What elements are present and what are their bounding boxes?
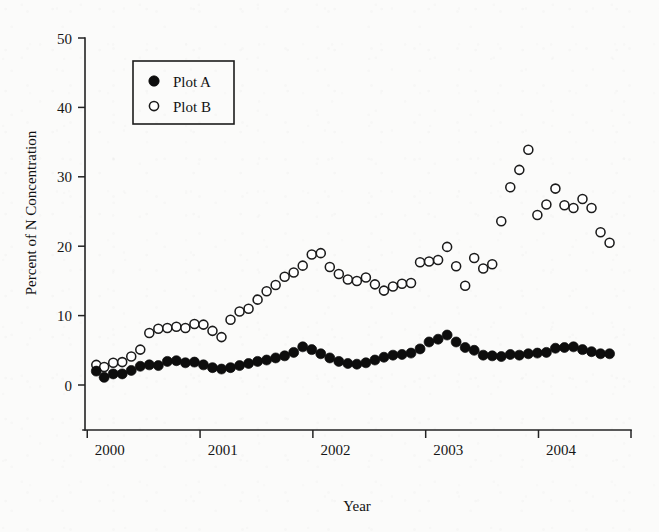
data-point-plot-b [271,281,280,290]
data-point-plot-b [316,249,325,258]
data-point-plot-a [442,330,452,340]
data-point-plot-a [108,369,118,379]
data-point-plot-b [253,295,262,304]
data-point-plot-b [379,286,388,295]
data-point-plot-a [550,343,560,353]
data-point-plot-a [171,356,181,366]
data-point-plot-b [416,258,425,267]
x-tick-label: 2000 [95,442,125,458]
data-point-plot-a [451,337,461,347]
x-tick-label: 2004 [546,442,577,458]
data-point-plot-b [109,358,118,367]
data-point-plot-b [199,320,208,329]
y-tick-label: 30 [57,169,72,185]
data-point-plot-a [406,348,416,358]
legend-label-plot-b: Plot B [173,99,211,115]
data-point-plot-a [605,349,615,359]
series-plot-b-points [92,145,614,371]
data-point-plot-a [207,363,217,373]
data-point-plot-b [190,319,199,328]
data-point-plot-a [153,361,163,371]
data-point-plot-a [541,347,551,357]
data-point-plot-a [316,349,326,359]
data-point-plot-b [136,345,145,354]
y-tick-label: 40 [57,100,72,116]
data-point-plot-b [181,324,190,333]
data-point-plot-a [343,358,353,368]
data-point-plot-a [379,352,389,362]
data-point-plot-b [479,264,488,273]
y-axis-title: Percent of N Concentration [23,130,39,295]
data-point-plot-b [470,254,479,263]
data-point-plot-a [226,363,236,373]
data-point-plot-b [434,256,443,265]
data-point-plot-a [271,353,281,363]
data-point-plot-b [208,326,217,335]
data-point-plot-a [415,344,425,354]
x-axis-ticks: 20002001200220032004 [87,430,631,458]
data-point-plot-a [370,355,380,365]
data-point-plot-a [334,356,344,366]
data-point-plot-a [496,352,506,362]
data-point-plot-a [189,357,199,367]
data-point-plot-b [163,324,172,333]
data-point-plot-a [135,361,145,371]
data-point-plot-a [505,349,515,359]
data-point-plot-b [407,278,416,287]
data-point-plot-b [118,358,127,367]
data-point-plot-b [443,242,452,251]
data-point-plot-b [551,184,560,193]
data-point-plot-b [280,272,289,281]
data-point-plot-a [577,345,587,355]
data-point-plot-b [127,352,136,361]
data-point-plot-b [452,262,461,271]
chart-legend: Plot A Plot B [133,61,234,124]
data-point-plot-b [154,324,163,333]
data-point-plot-a [126,365,136,375]
data-point-plot-b [488,260,497,269]
data-point-plot-b [145,328,154,337]
data-point-plot-b [235,307,244,316]
data-point-plot-b [560,201,569,210]
data-point-plot-a [596,349,606,359]
data-point-plot-a [523,349,533,359]
data-point-plot-a [514,350,524,360]
data-point-plot-a [280,351,290,361]
data-point-plot-b [542,200,551,209]
data-point-plot-a [244,358,254,368]
data-point-plot-b [398,279,407,288]
data-point-plot-b [425,257,434,266]
data-point-plot-a [235,361,245,371]
data-point-plot-b [515,165,524,174]
data-point-plot-b [578,195,587,204]
data-point-plot-a [253,356,263,366]
data-point-plot-a [289,347,299,357]
data-point-plot-a [433,334,443,344]
data-point-plot-a [144,360,154,370]
data-point-plot-a [568,342,578,352]
data-point-plot-a [397,349,407,359]
data-point-plot-b [388,282,397,291]
legend-marker-plot-a [149,76,159,86]
data-point-plot-b [605,238,614,247]
data-point-plot-a [217,364,227,374]
legend-marker-plot-b [149,101,158,110]
data-point-plot-b [334,269,343,278]
data-point-plot-b [325,263,334,272]
data-point-plot-a [198,360,208,370]
data-point-plot-b [587,204,596,213]
data-point-plot-a [587,347,597,357]
data-point-plot-b [298,261,307,270]
data-point-plot-b [461,281,470,290]
data-point-plot-a [325,353,335,363]
data-point-plot-b [352,276,361,285]
data-point-plot-b [343,275,352,284]
data-point-plot-a [424,337,434,347]
data-point-plot-a [262,355,272,365]
data-point-plot-a [162,356,172,366]
data-point-plot-b [172,322,181,331]
series-plot-a-points [91,330,614,382]
y-axis-ticks: 01020304050 [57,31,85,394]
y-tick-label: 50 [57,31,72,47]
data-point-plot-a [307,345,317,355]
